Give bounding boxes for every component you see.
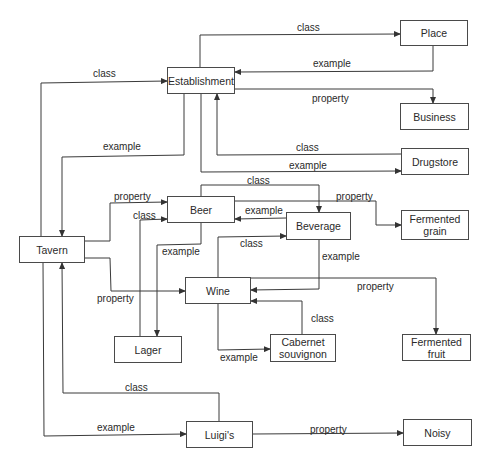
- node-label: Beverage: [296, 220, 341, 232]
- edge-label-class: class: [296, 142, 319, 153]
- edge-label-property: property: [310, 424, 347, 435]
- node-cabernet: Cabernet souvignon: [270, 334, 336, 362]
- edge-label-property: property: [357, 281, 394, 292]
- edge-label-example: example: [97, 422, 135, 433]
- edge-wine-property-fermented_fruit: [251, 278, 436, 334]
- node-label: Luigi's: [205, 429, 234, 441]
- edge-establishment-example-tavern: [62, 94, 184, 236]
- node-label: Wine: [206, 285, 230, 297]
- node-noisy: Noisy: [403, 419, 472, 446]
- node-wine: Wine: [185, 277, 251, 304]
- node-label: Tavern: [36, 244, 68, 256]
- node-label: Fermented grain: [410, 213, 461, 237]
- edge-lager-class-beer: [140, 219, 167, 336]
- edge-label-example: example: [162, 246, 200, 257]
- node-beer: Beer: [167, 196, 235, 223]
- node-label: Drugstore: [412, 156, 458, 168]
- edge-tavern-property-beer: [85, 202, 167, 241]
- edge-label-class: class: [125, 382, 148, 393]
- edge-label-example: example: [322, 251, 360, 262]
- node-fermented-fruit: Fermented fruit: [402, 334, 471, 361]
- semantic-network-diagram: classexamplepropertyclassexampleclassexa…: [0, 0, 489, 469]
- edge-label-example: example: [289, 160, 327, 171]
- edge-label-class: class: [93, 68, 116, 79]
- edge-tavern-property-wine: [85, 258, 185, 291]
- node-label: Business: [413, 111, 456, 123]
- edge-label-example: example: [103, 141, 141, 152]
- edge-label-property: property: [97, 293, 134, 304]
- node-label: Fermented fruit: [411, 336, 462, 360]
- node-label: Cabernet souvignon: [279, 336, 327, 360]
- node-establishment: Establishment: [167, 67, 235, 94]
- edge-cabernet-class-wine: [251, 301, 302, 334]
- edge-label-class: class: [311, 313, 334, 324]
- node-business: Business: [400, 103, 469, 130]
- edge-label-class: class: [133, 210, 156, 221]
- node-drugstore: Drugstore: [401, 148, 469, 175]
- node-beverage: Beverage: [286, 212, 351, 240]
- edge-label-example: example: [245, 205, 283, 216]
- edge-establishment-class-place: [200, 34, 400, 67]
- node-tavern: Tavern: [19, 236, 85, 263]
- edge-label-property: property: [114, 191, 151, 202]
- node-fermented-grain: Fermented grain: [401, 210, 469, 240]
- edge-label-property: property: [312, 93, 349, 104]
- edge-label-class: class: [247, 175, 270, 186]
- edge-label-property: property: [336, 191, 373, 202]
- node-label: Lager: [135, 344, 162, 356]
- edge-label-example: example: [220, 352, 258, 363]
- node-label: Establishment: [168, 75, 234, 87]
- node-place: Place: [400, 20, 468, 46]
- node-label: Noisy: [424, 427, 450, 439]
- node-lager: Lager: [114, 336, 182, 363]
- edge-label-class: class: [240, 238, 263, 249]
- edge-beverage-example-beer: [235, 218, 286, 219]
- node-label: Beer: [190, 204, 212, 216]
- node-label: Place: [421, 27, 447, 39]
- edge-label-example: example: [313, 58, 351, 69]
- node-luigis: Luigi's: [186, 421, 253, 448]
- edge-wine-example-cabernet: [218, 304, 270, 350]
- edge-label-class: class: [297, 22, 320, 33]
